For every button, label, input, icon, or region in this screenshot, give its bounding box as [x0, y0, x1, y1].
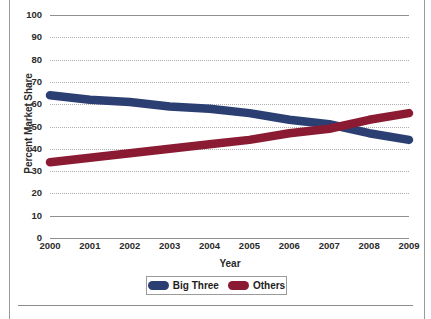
- legend-swatch-icon: [148, 281, 169, 290]
- legend-label: Big Three: [173, 280, 219, 291]
- legend-swatch-icon: [228, 281, 249, 290]
- series-line-others: [50, 113, 409, 162]
- legend-entry-big-three[interactable]: Big Three: [148, 280, 219, 291]
- chart-figure: 0102030405060708090100 20002001200220032…: [0, 0, 431, 319]
- legend-label: Others: [253, 280, 285, 291]
- line-chart: 0102030405060708090100 20002001200220032…: [0, 0, 431, 319]
- series-line-big-three: [50, 95, 409, 140]
- x-axis-title: Year: [48, 258, 412, 269]
- legend-entry-others[interactable]: Others: [228, 280, 285, 291]
- series-plot-layer: [0, 0, 431, 319]
- chart-legend[interactable]: Big ThreeOthers: [146, 276, 287, 295]
- y-axis-title: Percent Market Share: [23, 49, 34, 199]
